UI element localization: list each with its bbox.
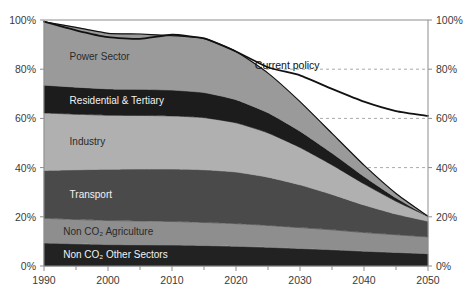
x-tick-label-2050: 2050 <box>416 274 440 286</box>
y-tick-label-left-0: 0% <box>21 260 36 272</box>
chart-container: Current policy 0%0%20%20%40%40%60%60%80%… <box>0 0 467 300</box>
y-tick-label-left-100: 100% <box>9 14 36 26</box>
x-tick-label-2010: 2010 <box>160 274 184 286</box>
y-tick-label-left-20: 20% <box>15 211 36 223</box>
band-label-power-sector: Power Sector <box>70 51 131 62</box>
current-policy-label: Current policy <box>255 59 321 71</box>
band-label-non-co2-agriculture: Non CO₂ Agriculture <box>63 226 153 237</box>
band-label-transport: Transport <box>70 189 113 200</box>
x-tick-label-2030: 2030 <box>288 274 312 286</box>
emissions-stacked-area-chart: Current policy 0%0%20%20%40%40%60%60%80%… <box>0 0 467 300</box>
band-label-residential-tertiary: Residential & Tertiary <box>70 95 164 106</box>
x-tick-label-2020: 2020 <box>224 274 248 286</box>
y-tick-label-right-0: 0% <box>436 260 451 272</box>
y-tick-label-right-20: 20% <box>436 211 457 223</box>
y-tick-label-right-80: 80% <box>436 63 457 75</box>
x-tick-label-1990: 1990 <box>32 274 56 286</box>
band-label-non-co2-other-sectors: Non CO₂ Other Sectors <box>63 249 167 260</box>
y-tick-label-right-100: 100% <box>436 14 463 26</box>
band-label-industry: Industry <box>70 136 106 147</box>
y-tick-label-left-40: 40% <box>15 162 36 174</box>
y-tick-label-right-40: 40% <box>436 162 457 174</box>
y-tick-label-right-60: 60% <box>436 112 457 124</box>
x-tick-label-2000: 2000 <box>96 274 120 286</box>
y-tick-label-left-80: 80% <box>15 63 36 75</box>
x-tick-label-2040: 2040 <box>352 274 376 286</box>
y-tick-label-left-60: 60% <box>15 112 36 124</box>
